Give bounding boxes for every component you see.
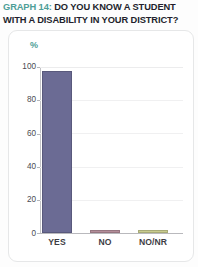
- y-axis-tick-labels: 100 80 60 40 20 0: [9, 0, 36, 267]
- bar-yes-fill: [42, 71, 72, 233]
- graph-figure: GRAPH 14: DO YOU KNOW A STUDENT WITH A D…: [0, 0, 198, 267]
- y-tick-label: 20: [12, 196, 36, 204]
- x-tick-label-no-nr: NO/NR: [123, 238, 183, 247]
- y-tick-label: 100: [12, 63, 36, 71]
- y-tick-label: 80: [12, 96, 36, 104]
- y-tick-label: 40: [12, 163, 36, 171]
- bar-no-nr-fill: [138, 230, 168, 233]
- bar-no[interactable]: [90, 67, 120, 233]
- bar-no-nr[interactable]: [138, 67, 168, 233]
- plot-area: [40, 67, 183, 233]
- y-tick-label: 60: [12, 130, 36, 138]
- bar-yes[interactable]: [42, 67, 72, 233]
- bar-no-fill: [90, 230, 120, 233]
- x-axis-baseline: [40, 233, 183, 234]
- y-tick-label: 0: [12, 230, 36, 238]
